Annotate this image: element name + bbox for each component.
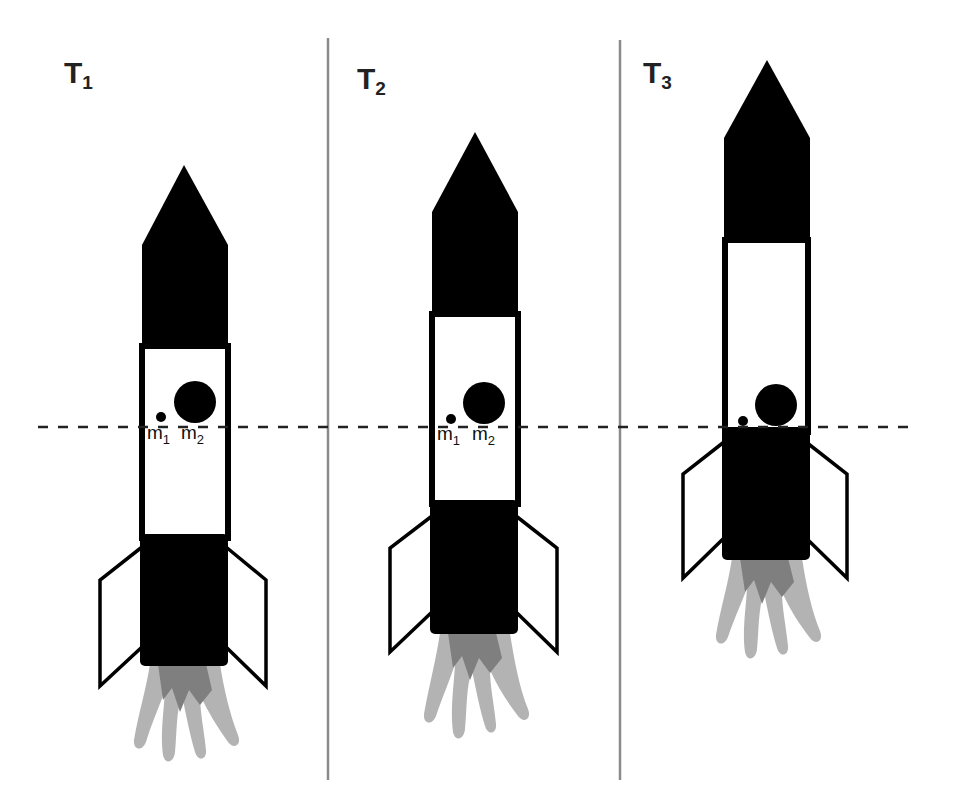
label-main: m <box>437 423 453 444</box>
label-subscript: 1 <box>453 433 460 448</box>
panel-label-t1: T1 <box>64 58 93 92</box>
panel-label-t3: T3 <box>643 58 672 92</box>
label-subscript: 1 <box>163 432 170 447</box>
label-subscript: 2 <box>197 432 204 447</box>
mass-label-m1-t1: m1 <box>147 423 170 446</box>
right-fin <box>806 442 847 578</box>
label-main: m <box>147 422 163 443</box>
flame-icon <box>424 633 529 738</box>
panel-label-t2: T2 <box>357 64 386 98</box>
mass-label-m1-t2: m1 <box>437 424 460 447</box>
label-subscript: 2 <box>488 433 495 448</box>
mass-label-m2-t2: m2 <box>472 424 495 447</box>
right-fin <box>516 516 557 652</box>
mass-m2 <box>463 382 505 424</box>
nose-cone <box>724 60 810 244</box>
flame-icon <box>134 664 239 761</box>
lower-body <box>140 534 228 666</box>
rocket-diagram: T1 T2 T3 m1 m2 m1 m2 <box>0 0 955 810</box>
mass-m2 <box>755 384 797 426</box>
label-subscript: 1 <box>82 72 93 93</box>
label-main: T <box>64 56 82 89</box>
rocket-1 <box>100 165 266 761</box>
label-main: m <box>472 423 488 444</box>
lower-body <box>430 500 518 634</box>
left-fin <box>683 442 724 578</box>
label-main: m <box>181 422 197 443</box>
label-main: T <box>643 56 661 89</box>
diagram-canvas <box>0 0 955 810</box>
right-fin <box>226 547 266 686</box>
left-fin <box>100 547 142 686</box>
flame-icon <box>716 558 821 658</box>
left-fin <box>390 516 432 652</box>
nose-cone <box>142 165 228 350</box>
mass-label-m2-t1: m2 <box>181 423 204 446</box>
label-main: T <box>357 62 375 95</box>
mass-m1 <box>738 416 748 426</box>
rocket-3 <box>683 60 847 658</box>
mass-m1 <box>156 412 166 422</box>
label-subscript: 3 <box>661 72 672 93</box>
label-subscript: 2 <box>375 78 386 99</box>
nose-cone <box>432 132 518 318</box>
lower-body <box>722 427 810 560</box>
mass-m2 <box>174 381 216 423</box>
